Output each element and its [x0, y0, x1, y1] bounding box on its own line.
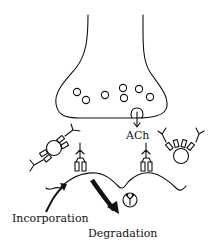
membrane-receptor-left: [75, 143, 86, 171]
diagram-canvas: ACh Incorporation Degradation: [0, 0, 216, 252]
postsynaptic-membrane: [46, 173, 186, 190]
degradation-arrow: [92, 180, 119, 214]
incorporation-label: Incorporation: [12, 213, 89, 224]
membrane-receptor-right: [141, 143, 152, 171]
degradation-label: Degradation: [88, 228, 157, 239]
ach-label: ACh: [126, 130, 149, 141]
internal-vesicle-left: [30, 124, 80, 171]
degraded-complex: [123, 193, 137, 207]
nerve-terminal-outline: [56, 15, 167, 118]
synaptic-vesicles: [73, 84, 153, 103]
internal-vesicle-right: [158, 128, 204, 164]
